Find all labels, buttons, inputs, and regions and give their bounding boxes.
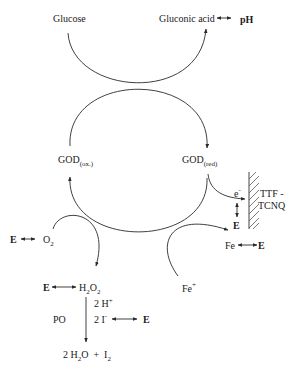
- gred-to-gox-arc: [70, 177, 207, 232]
- fe-label: Fe: [225, 240, 236, 251]
- o2-to-h2o2-arc: [53, 215, 99, 266]
- iodide-label: 2 I-: [94, 312, 108, 325]
- electrode-e-label: E: [233, 220, 240, 231]
- fe-e-label: E: [258, 240, 265, 251]
- o2-e-label: E: [10, 234, 17, 245]
- feplus-label: Fe+: [182, 281, 196, 294]
- final-products-label: 2 H2O + I2: [63, 349, 111, 363]
- gluconic-acid-label: Gluconic acid: [159, 13, 215, 24]
- h2o2-label: H2O2: [79, 282, 101, 296]
- electrode-label-line2: TCNQ: [258, 200, 286, 211]
- god-oxidized-label: GOD(ox.): [58, 154, 94, 168]
- ph-label: pH: [240, 14, 254, 25]
- gox-to-gred-arc: [70, 89, 207, 148]
- reaction-scheme-diagram: Glucose Gluconic acid pH GOD(ox.) GOD(re…: [0, 0, 297, 368]
- glucose-label: Glucose: [53, 13, 86, 24]
- feplus-to-fe-arc: [167, 224, 228, 276]
- o2-label: O2: [43, 234, 54, 248]
- iodide-e-label: E: [143, 314, 150, 325]
- god-reduced-label: GOD(red): [182, 154, 218, 168]
- glucose-to-gluconic-arc: [68, 29, 206, 83]
- electron-label: e-: [234, 186, 241, 199]
- h2o2-e-label: E: [43, 282, 50, 293]
- electrode-label-line1: TTF -: [260, 188, 284, 199]
- protons-label: 2 H+: [94, 297, 113, 309]
- peroxidase-label: PO: [53, 314, 66, 325]
